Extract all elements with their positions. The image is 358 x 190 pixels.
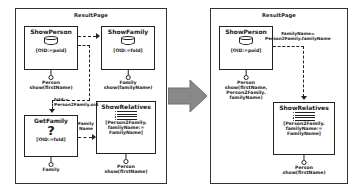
database-cylinder-icon <box>121 36 135 47</box>
edge-person-to-family <box>78 36 96 37</box>
port-label: Person show(firstName, Person2Family. fa… <box>225 80 268 100</box>
node-title: ShowRelatives <box>279 105 329 111</box>
port-show-person-transformed: Person show(firstName, Person2Family. fa… <box>225 70 268 100</box>
edge-label-fold: fold:= Person2Family.oid <box>54 98 98 108</box>
node-show-person[interactable]: ShowPerson [OID:=poid] <box>24 26 78 70</box>
diagram-canvas: ResultPage ShowPerson [OID:=poid] Person… <box>0 0 358 190</box>
node-condition: [Person2Family. familyName:= FamilyName] <box>283 122 324 136</box>
edge-label-family-name-assign: FamilyName= Person2Family.familyName <box>265 32 331 42</box>
list-icon <box>293 112 316 121</box>
port-label: Family <box>43 167 60 172</box>
node-condition: [OID:=poid] <box>36 49 67 54</box>
node-show-relatives[interactable]: ShowRelatives [Person2Family. familyName… <box>96 101 156 154</box>
node-title: ShowPerson <box>225 29 267 35</box>
edge-person-to-getfamily-v <box>89 45 90 101</box>
port-show-relatives: Person show(firstName) <box>104 154 147 174</box>
port-label: Person show(firstName) <box>104 164 147 174</box>
edge-person-to-relatives-h <box>273 46 304 47</box>
node-get-family[interactable]: GetFamily ? [OID:=fold] <box>24 115 78 157</box>
node-show-family[interactable]: ShowFamily [OID:=fold] <box>101 26 155 70</box>
node-condition: [OID:=fold] <box>113 49 142 54</box>
port-show-family: Family show(familyName) <box>104 70 152 90</box>
node-condition: [OID:=poid] <box>231 49 262 54</box>
node-condition: [Person2Family. familyName:= FamilyName] <box>105 121 146 135</box>
port-label: Person show(firstName) <box>282 165 325 175</box>
node-title: ShowRelatives <box>101 104 151 110</box>
left-panel-title: ResultPage <box>16 12 166 18</box>
question-mark-icon: ? <box>47 124 55 137</box>
database-cylinder-icon <box>44 36 58 47</box>
node-title: ShowFamily <box>108 29 148 35</box>
database-cylinder-icon <box>239 36 253 47</box>
node-condition: [OID:=fold] <box>36 138 65 143</box>
port-label: Person show(firstName) <box>29 80 72 90</box>
edge-getfamily-to-relatives <box>78 137 92 138</box>
edge-arrowhead <box>49 109 55 113</box>
transformation-arrow <box>168 78 208 114</box>
list-icon <box>115 111 138 120</box>
node-show-relatives-transformed[interactable]: ShowRelatives [Person2Family. familyName… <box>273 102 335 155</box>
port-show-relatives-transformed: Person show(firstName) <box>282 155 325 175</box>
port-get-family: Family <box>43 157 60 172</box>
edge-label-family-name: Family Name <box>78 122 94 132</box>
edge-arrowhead <box>301 96 307 100</box>
right-result-page-panel: ResultPage ShowPerson [OID:=poid] Person… <box>210 8 348 184</box>
node-title: ShowPerson <box>30 29 72 35</box>
port-label: Family show(familyName) <box>104 80 152 90</box>
left-result-page-panel: ResultPage ShowPerson [OID:=poid] Person… <box>15 8 167 184</box>
port-show-person: Person show(firstName) <box>29 70 72 90</box>
edge-arrowhead <box>96 33 100 39</box>
edge-person-to-relatives-v <box>303 46 304 97</box>
right-panel-title: ResultPage <box>211 12 347 18</box>
edge-arrowhead <box>92 134 96 140</box>
